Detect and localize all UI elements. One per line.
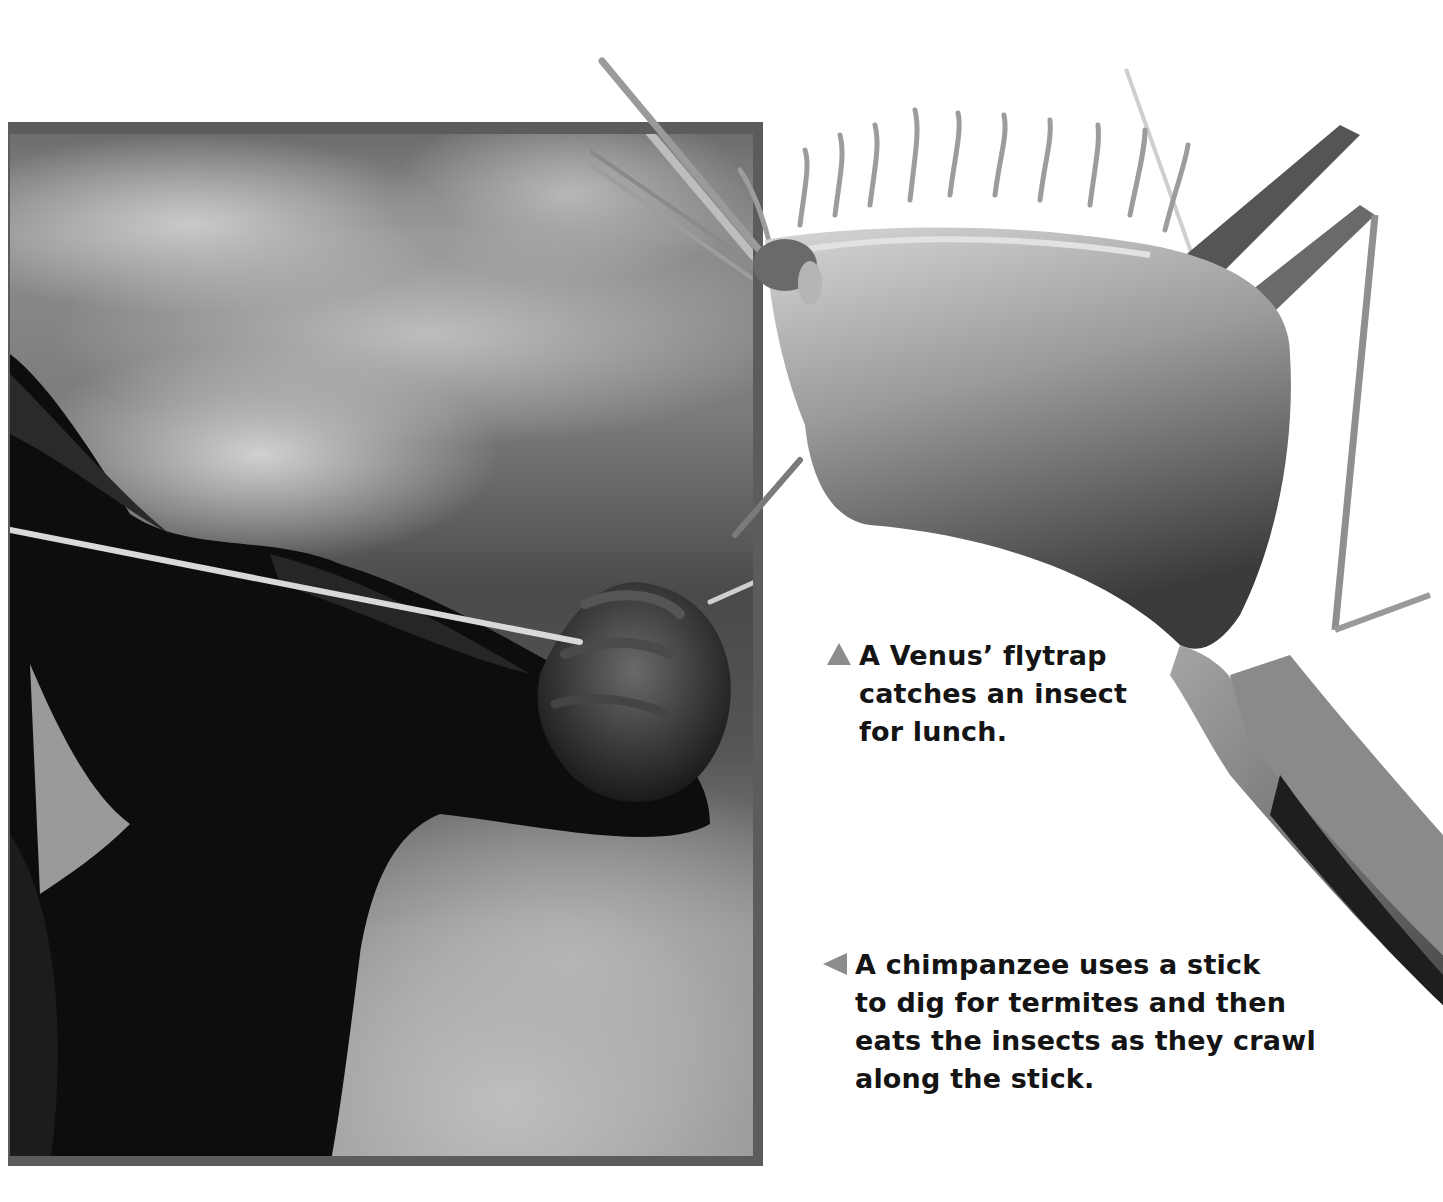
triangle-left-icon [823, 953, 847, 975]
caption-flytrap: A Venus’ flytrap catches an insect for l… [859, 637, 1159, 751]
caption-line: A Venus’ flytrap [859, 637, 1159, 675]
caption-line: along the stick. [855, 1060, 1325, 1098]
caption-line: catches an insect [859, 675, 1159, 713]
caption-line: eats the insects as they crawl [855, 1022, 1325, 1060]
flytrap-photo [590, 55, 1443, 1005]
caption-line: for lunch. [859, 713, 1159, 751]
caption-line: A chimpanzee uses a stick [855, 946, 1325, 984]
flytrap-illustration [590, 55, 1443, 1005]
triangle-up-icon [827, 643, 851, 665]
caption-line: to dig for termites and then [855, 984, 1325, 1022]
caption-chimpanzee: A chimpanzee uses a stick to dig for ter… [855, 946, 1325, 1098]
